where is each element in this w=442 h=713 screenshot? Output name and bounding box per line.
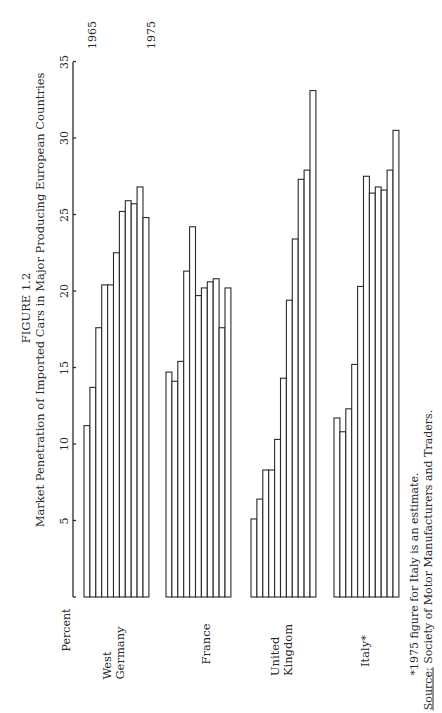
- bar: [84, 426, 90, 597]
- source-text: Society of Motor Manufacturers and Trade…: [422, 410, 435, 664]
- bar: [292, 239, 298, 597]
- bar: [310, 91, 316, 597]
- tick-label: 10: [58, 437, 71, 451]
- bar-group-france: [166, 227, 231, 597]
- tick-label: 30: [58, 131, 71, 145]
- figure-number: FIGURE 1.2: [19, 273, 33, 343]
- bar: [257, 499, 263, 597]
- tick-label: 5: [58, 517, 71, 524]
- y-axis-label: Percent: [60, 609, 73, 652]
- bar-group-italy: [334, 130, 399, 597]
- bar: [225, 288, 231, 597]
- group-label-line: Germany: [114, 626, 127, 679]
- bar: [207, 282, 213, 597]
- bar: [172, 381, 178, 597]
- bar: [393, 130, 399, 597]
- bar-groups: [84, 91, 399, 597]
- bar: [304, 170, 310, 597]
- bar: [263, 470, 269, 597]
- source-note: Source: Society of Motor Manufacturers a…: [422, 410, 435, 710]
- group-label-line: France: [200, 624, 213, 665]
- bar-group-united-kingdom: [251, 91, 316, 597]
- bar: [286, 300, 292, 597]
- figure-title: Market Penetration of Imported Cars in M…: [33, 73, 47, 528]
- bar: [269, 470, 275, 597]
- year-start-label: 1965: [86, 21, 99, 49]
- bar: [114, 253, 120, 597]
- footnote: *1975 figure for Italy is an estimate.: [408, 472, 421, 675]
- bar: [166, 372, 172, 597]
- bar: [143, 218, 149, 597]
- bar: [96, 328, 102, 597]
- year-end-label: 1975: [145, 21, 158, 49]
- bar: [387, 170, 393, 597]
- tick-label: 15: [58, 361, 71, 375]
- bar: [137, 187, 143, 597]
- group-label-west-germany: West Germany: [101, 626, 127, 679]
- bar: [364, 176, 370, 597]
- bar-chart: [0, 0, 442, 713]
- tick-label: 25: [58, 208, 71, 222]
- bar: [125, 201, 131, 597]
- bar: [196, 296, 202, 597]
- group-label-line: Kingdom: [282, 624, 295, 676]
- tick-label: 35: [58, 55, 71, 69]
- bar: [298, 179, 304, 597]
- bar-group-west-germany: [84, 187, 149, 597]
- bar: [352, 364, 358, 597]
- bar: [381, 190, 387, 597]
- group-label-line: Italy*: [359, 635, 372, 667]
- bar: [346, 409, 352, 597]
- group-label-france: France: [200, 624, 213, 665]
- bar: [102, 285, 108, 597]
- bar: [358, 286, 364, 597]
- group-label-united-kingdom: United Kingdom: [269, 624, 295, 676]
- bar: [131, 204, 137, 597]
- group-label-italy: Italy*: [359, 635, 372, 667]
- bar: [275, 439, 281, 597]
- bar: [90, 387, 96, 597]
- bar: [251, 519, 257, 597]
- bar: [178, 361, 184, 597]
- bar: [184, 271, 190, 597]
- bar: [369, 193, 375, 597]
- bar: [340, 432, 346, 597]
- bar: [281, 378, 287, 597]
- tick-label: 20: [58, 284, 71, 298]
- bar: [213, 279, 219, 597]
- bar: [108, 285, 114, 597]
- bar: [334, 418, 340, 597]
- bar: [219, 328, 225, 597]
- bar: [119, 211, 125, 597]
- source-label: Source:: [422, 667, 435, 710]
- bar: [190, 227, 196, 597]
- bar: [375, 187, 381, 597]
- bar: [201, 288, 207, 597]
